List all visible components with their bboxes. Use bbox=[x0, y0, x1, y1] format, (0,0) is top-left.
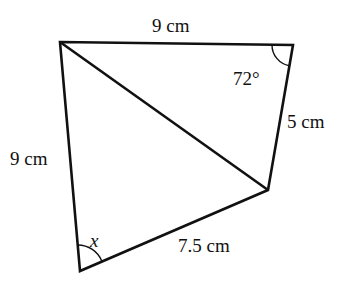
label-left-side: 9 cm bbox=[10, 148, 48, 169]
label-angle-72: 72° bbox=[233, 68, 260, 89]
label-bottom-side: 7.5 cm bbox=[178, 235, 230, 256]
diagonal-line bbox=[60, 42, 268, 190]
label-top-side: 9 cm bbox=[152, 15, 190, 36]
label-angle-x: x bbox=[89, 230, 99, 251]
quadrilateral-diagram: 9 cm 72° 5 cm 9 cm x 7.5 cm bbox=[0, 0, 358, 284]
angle-arc-72 bbox=[272, 45, 289, 66]
label-right-side: 5 cm bbox=[287, 111, 325, 132]
